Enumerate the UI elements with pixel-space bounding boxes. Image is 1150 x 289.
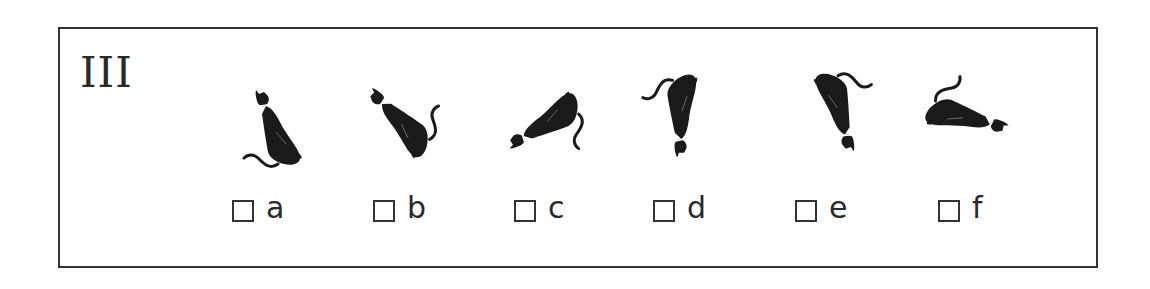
cat-silhouette-icon: [500, 80, 590, 170]
option-e[interactable]: e: [795, 196, 847, 226]
cat-silhouette-icon: [922, 72, 1012, 162]
cat-silhouette-icon: [635, 70, 725, 160]
option-d[interactable]: d: [653, 196, 706, 226]
checkbox-d[interactable]: [653, 200, 675, 222]
figure-f: [922, 72, 1012, 162]
option-label-d: d: [687, 193, 706, 223]
option-c[interactable]: c: [514, 196, 565, 226]
checkbox-b[interactable]: [373, 200, 395, 222]
option-label-f: f: [972, 193, 983, 223]
option-a[interactable]: a: [232, 196, 284, 226]
option-label-a: a: [266, 193, 284, 223]
figure-d: [635, 70, 725, 160]
figure-b: [355, 75, 445, 165]
cat-silhouette-icon: [795, 66, 885, 156]
option-label-c: c: [548, 193, 565, 223]
figure-c: [500, 80, 590, 170]
checkbox-a[interactable]: [232, 200, 254, 222]
option-label-b: b: [407, 193, 426, 223]
option-f[interactable]: f: [938, 196, 983, 226]
option-label-e: e: [829, 193, 847, 223]
cat-silhouette-icon: [228, 84, 318, 174]
checkbox-e[interactable]: [795, 200, 817, 222]
checkbox-c[interactable]: [514, 200, 536, 222]
figure-a: [228, 84, 318, 174]
exercise-number: III: [80, 52, 133, 94]
checkbox-f[interactable]: [938, 200, 960, 222]
figure-e: [795, 66, 885, 156]
option-b[interactable]: b: [373, 196, 426, 226]
cat-silhouette-icon: [355, 75, 445, 165]
